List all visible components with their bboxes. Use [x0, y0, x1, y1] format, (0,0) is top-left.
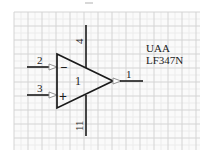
inverting-symbol: −	[60, 60, 67, 75]
cropped-mark	[85, 2, 93, 4]
component-designator: UAA	[146, 42, 170, 54]
unit-label: 1	[75, 74, 81, 88]
non-inverting-symbol: +	[59, 89, 67, 104]
pin-1-number: 1	[126, 68, 132, 80]
pin-11-number: 11	[73, 120, 85, 131]
schematic-grid	[14, 12, 200, 150]
pin-4-number: 4	[73, 38, 85, 44]
pin-2-number: 2	[37, 54, 43, 66]
component-part-number: LF347N	[146, 54, 183, 66]
schematic-canvas: − + 1 2 3 1 4 11 UAA LF347N	[0, 0, 210, 165]
pin-3-number: 3	[37, 82, 43, 94]
